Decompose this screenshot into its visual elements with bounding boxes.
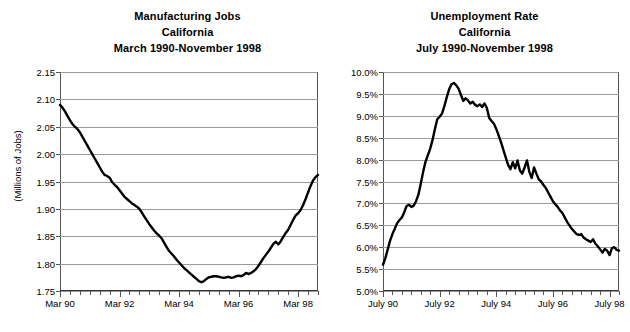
chart-title-block-right: Unemployment Rate California July 1990-N… bbox=[315, 8, 630, 56]
x-axis-tick-mark bbox=[619, 291, 620, 295]
y-axis-tick-label: 1.80 bbox=[37, 259, 56, 268]
data-line-right bbox=[383, 83, 619, 265]
x-axis-tick-mark bbox=[591, 291, 592, 295]
plot-area-left: 2.152.102.052.001.951.901.851.801.75 Mar… bbox=[60, 72, 318, 291]
y-axis-tick-label: 8.0% bbox=[356, 155, 378, 164]
y-axis-tick-label: 10.0% bbox=[351, 68, 378, 77]
x-axis-tick-mark bbox=[421, 291, 422, 295]
y-axis-tick-label: 7.5% bbox=[356, 177, 378, 186]
y-axis-label-left: (Millions of Jobs) bbox=[12, 130, 23, 201]
x-axis-tick-mark bbox=[278, 291, 279, 295]
x-axis-tick-mark bbox=[258, 291, 259, 295]
data-line-left bbox=[60, 105, 318, 282]
x-axis-tick-label: Mar 92 bbox=[105, 299, 135, 309]
chart-daterange-left: March 1990-November 1998 bbox=[30, 40, 345, 56]
y-axis-tick-label: 5.0% bbox=[356, 287, 378, 296]
x-axis-tick-label: Mar 96 bbox=[224, 299, 254, 309]
x-axis-tick-mark bbox=[440, 291, 441, 297]
x-axis-tick-mark bbox=[199, 291, 200, 295]
x-axis-tick-mark bbox=[392, 291, 393, 295]
chart-subtitle-right: California bbox=[327, 24, 630, 40]
y-axis-tick-label: 2.15 bbox=[37, 68, 56, 77]
y-axis-tick-label: 7.0% bbox=[356, 199, 378, 208]
x-axis-tick-mark bbox=[525, 291, 526, 295]
y-axis-tick-label: 2.05 bbox=[37, 122, 56, 131]
x-axis-tick-mark bbox=[553, 291, 554, 297]
chart-title-block-left: Manufacturing Jobs California March 1990… bbox=[0, 8, 345, 56]
y-axis-tick-label: 9.0% bbox=[356, 111, 378, 120]
x-axis-tick-label: Mar 94 bbox=[164, 299, 194, 309]
x-axis-tick-mark bbox=[268, 291, 269, 295]
x-axis-tick-mark bbox=[600, 291, 601, 295]
y-axis-tick-label: 6.0% bbox=[356, 243, 378, 252]
x-axis-tick-mark bbox=[229, 291, 230, 295]
chart-panel-manufacturing-jobs: Manufacturing Jobs California March 1990… bbox=[0, 0, 315, 332]
y-axis-tick-label: 1.95 bbox=[37, 177, 56, 186]
y-axis-tick-label: 1.90 bbox=[37, 204, 56, 213]
y-axis-tick-label: 8.5% bbox=[356, 133, 378, 142]
x-axis-tick-mark bbox=[543, 291, 544, 295]
x-axis-tick-mark bbox=[298, 291, 299, 297]
y-axis-tick-label: 9.5% bbox=[356, 89, 378, 98]
x-axis-tick-mark bbox=[110, 291, 111, 295]
x-axis-tick-mark bbox=[506, 291, 507, 295]
x-axis-tick-label: July 92 bbox=[425, 299, 455, 309]
x-axis-tick-mark bbox=[572, 291, 573, 295]
chart-panel-unemployment-rate: Unemployment Rate California July 1990-N… bbox=[315, 0, 630, 332]
y-axis-tick-label: 2.00 bbox=[37, 150, 56, 159]
y-axis-tick-label: 1.85 bbox=[37, 232, 56, 241]
x-axis-tick-mark bbox=[430, 291, 431, 295]
x-axis-tick-mark bbox=[70, 291, 71, 295]
x-axis-tick-mark bbox=[288, 291, 289, 295]
gridline bbox=[383, 291, 619, 292]
plot-area-right: 10.0%9.5%9.0%8.5%8.0%7.5%7.0%6.5%6.0%5.5… bbox=[383, 72, 619, 291]
x-axis-tick-mark bbox=[459, 291, 460, 295]
x-axis-tick-mark bbox=[139, 291, 140, 295]
x-axis-tick-mark bbox=[149, 291, 150, 295]
x-axis-tick-mark bbox=[402, 291, 403, 295]
x-axis-tick-mark bbox=[90, 291, 91, 295]
chart-subtitle-left: California bbox=[30, 24, 345, 40]
x-axis-tick-mark bbox=[411, 291, 412, 295]
y-axis-tick-label: 1.75 bbox=[37, 287, 56, 296]
x-axis-tick-label: July 96 bbox=[538, 299, 568, 309]
chart-daterange-right: July 1990-November 1998 bbox=[327, 40, 630, 56]
x-axis-tick-mark bbox=[129, 291, 130, 295]
x-axis-tick-mark bbox=[219, 291, 220, 295]
x-axis-tick-mark bbox=[581, 291, 582, 295]
x-axis-tick-label: July 94 bbox=[481, 299, 511, 309]
x-axis-tick-label: Mar 90 bbox=[45, 299, 75, 309]
data-series-right bbox=[383, 72, 619, 291]
x-axis-tick-mark bbox=[308, 291, 309, 295]
x-axis-tick-mark bbox=[496, 291, 497, 297]
x-axis-tick-mark bbox=[249, 291, 250, 295]
y-axis-tick-label: 5.5% bbox=[356, 265, 378, 274]
x-axis-tick-mark bbox=[189, 291, 190, 295]
x-axis-tick-mark bbox=[468, 291, 469, 295]
x-axis-tick-mark bbox=[80, 291, 81, 295]
chart-page: Manufacturing Jobs California March 1990… bbox=[0, 0, 630, 332]
x-axis-tick-mark bbox=[179, 291, 180, 297]
x-axis-tick-mark bbox=[449, 291, 450, 295]
y-axis-tick-label: 2.10 bbox=[37, 95, 56, 104]
x-axis-tick-mark bbox=[120, 291, 121, 297]
x-axis-tick-mark bbox=[562, 291, 563, 295]
x-axis-tick-mark bbox=[487, 291, 488, 295]
x-axis-tick-mark bbox=[60, 291, 61, 297]
x-axis-tick-label: July 98 bbox=[594, 299, 624, 309]
x-axis-tick-mark bbox=[383, 291, 384, 297]
x-axis-tick-mark bbox=[169, 291, 170, 295]
x-axis-tick-mark bbox=[209, 291, 210, 295]
chart-title-left: Manufacturing Jobs bbox=[30, 8, 345, 24]
x-axis-tick-label: July 90 bbox=[368, 299, 398, 309]
x-axis-tick-label: Mar 98 bbox=[283, 299, 313, 309]
chart-title-right: Unemployment Rate bbox=[327, 8, 630, 24]
y-axis-tick-label: 6.5% bbox=[356, 221, 378, 230]
data-series-left bbox=[60, 72, 318, 291]
x-axis-tick-mark bbox=[239, 291, 240, 297]
x-axis-tick-mark bbox=[100, 291, 101, 295]
x-axis-tick-mark bbox=[610, 291, 611, 297]
x-axis-tick-mark bbox=[534, 291, 535, 295]
x-axis-tick-mark bbox=[159, 291, 160, 295]
x-axis-tick-mark bbox=[515, 291, 516, 295]
